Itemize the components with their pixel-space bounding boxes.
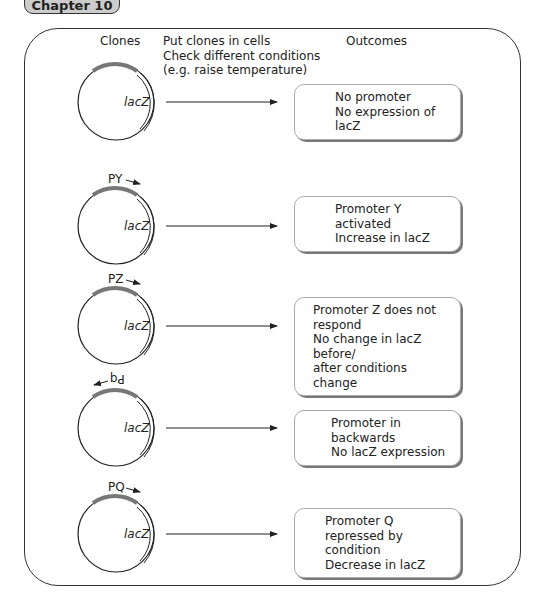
- lacz-label: lacZ: [124, 527, 150, 541]
- plasmid-diagrams: [0, 0, 542, 602]
- outcome-box-4: Promoter in backwards No lacZ expression: [294, 410, 461, 466]
- plasmid-row-5: [78, 488, 277, 572]
- promoter-label-reversed: Pq: [110, 372, 125, 386]
- plasmid-row-1: [78, 64, 277, 140]
- lacz-label: lacZ: [124, 319, 150, 333]
- lacz-label: lacZ: [124, 421, 150, 435]
- outcome-box-5: Promoter Q repressed by condition Decrea…: [294, 508, 461, 578]
- plasmid-row-3: [78, 280, 277, 364]
- plasmid-row-4: [78, 381, 277, 466]
- outcome-box-1: No promoter No expression of lacZ: [294, 84, 461, 140]
- promoter-label-z: PZ: [108, 272, 123, 286]
- lacz-label: lacZ: [124, 95, 150, 109]
- plasmid-row-2: [78, 180, 277, 264]
- outcome-box-3: Promoter Z does not respond No change in…: [294, 297, 461, 396]
- lacz-label: lacZ: [124, 219, 150, 233]
- promoter-label-y: PY: [108, 172, 122, 186]
- outcome-box-2: Promoter Y activated Increase in lacZ: [294, 196, 461, 252]
- promoter-label-q: PQ: [108, 480, 125, 494]
